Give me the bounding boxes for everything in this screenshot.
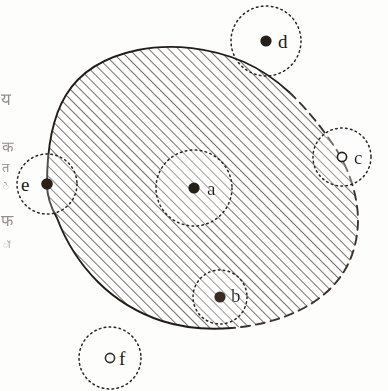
point-label-f: f (119, 348, 126, 369)
point-label-a: a (207, 178, 216, 199)
point-marker-b (214, 291, 225, 302)
topology-figure: a b c d e f य क त े फ ॉ (0, 0, 388, 391)
point-label-b: b (231, 285, 241, 306)
point-label-c: c (354, 147, 362, 168)
margin-glyph-4: फ (1, 212, 14, 229)
margin-glyph-0: य (1, 90, 12, 109)
margin-glyph-1: क (2, 139, 14, 155)
point-label-d: d (278, 31, 288, 52)
margin-glyph-5: ॉ (3, 240, 11, 250)
figure-container: a b c d e f य क त े फ ॉ (0, 0, 388, 391)
point-marker-a (188, 182, 199, 193)
point-marker-d (260, 35, 271, 46)
point-marker-c (337, 152, 346, 161)
point-label-e: e (21, 174, 29, 195)
point-marker-f (105, 353, 114, 362)
margin-glyph-3: े (3, 181, 9, 192)
margin-glyph-2: त (2, 160, 10, 175)
point-marker-e (41, 178, 53, 190)
